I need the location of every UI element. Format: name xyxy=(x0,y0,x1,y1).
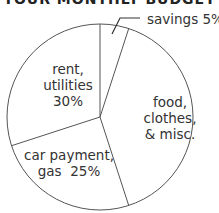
label-food-line1: food, xyxy=(125,94,215,110)
label-savings: savings 5% xyxy=(147,11,219,27)
label-rent-line2: utilities xyxy=(28,77,108,93)
label-rent: rent, utilities 30% xyxy=(28,61,108,109)
label-rent-line1: rent, xyxy=(28,61,108,77)
label-rent-line3: 30% xyxy=(28,93,108,109)
label-car-line1: car payment, xyxy=(24,147,114,163)
label-food-line3: & misc. xyxy=(125,126,215,142)
label-car: car payment, gas 25% xyxy=(24,147,114,179)
label-car-line2: gas 25% xyxy=(24,163,114,179)
label-food: food, clothes, & misc. xyxy=(125,94,215,142)
label-food-line2: clothes, xyxy=(125,110,215,126)
